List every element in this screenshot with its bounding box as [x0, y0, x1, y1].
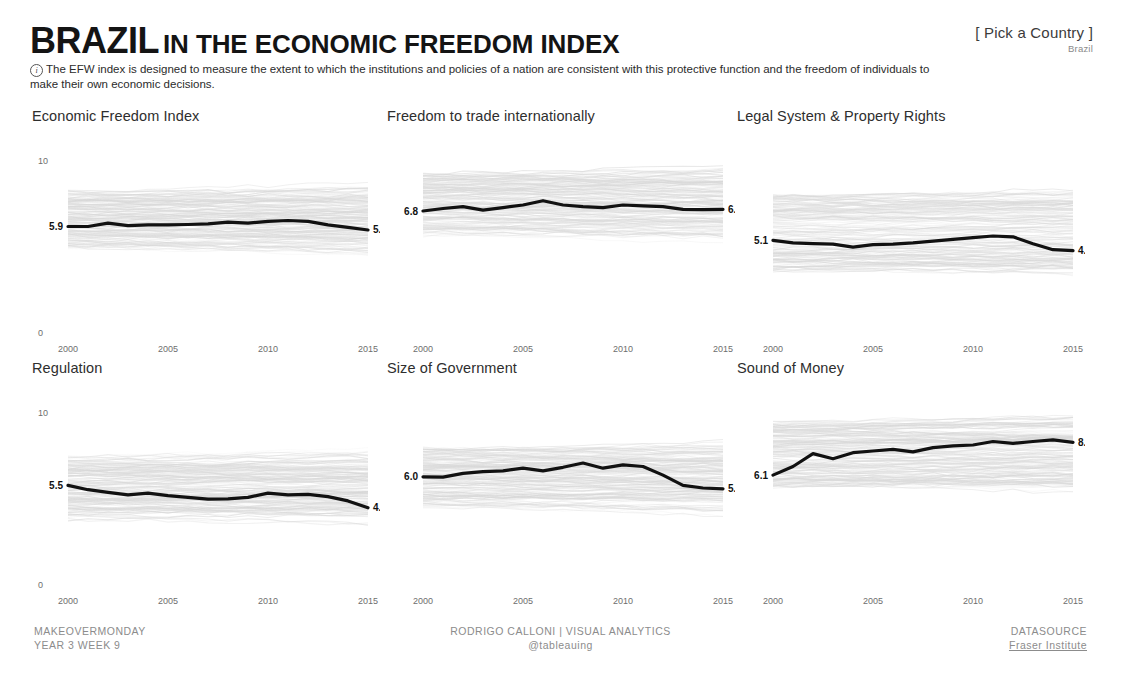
x-axis-tick-2015: 2015 — [358, 596, 378, 606]
plot-area: 6.18.0 2000200520102015 — [735, 382, 1085, 604]
line-chart-svg: 5.95.7 — [30, 130, 380, 352]
chart-panel-economic-freedom-index: Economic Freedom Index 10 0 5.95.7 20002… — [30, 108, 380, 358]
x-axis-tick-2010: 2010 — [963, 344, 983, 354]
chart-panel-regulation: Regulation 10 0 5.54.2 2000200520102015 — [30, 360, 380, 610]
x-axis-tick-2000: 2000 — [413, 596, 433, 606]
end-value-label: 4.2 — [373, 502, 380, 513]
page-title: BRAZILIN THE ECONOMIC FREEDOM INDEX — [30, 20, 619, 62]
info-icon: i — [30, 64, 43, 77]
x-axis: 2000200520102015 — [773, 344, 1073, 358]
chart-title: Economic Freedom Index — [32, 108, 380, 130]
subtitle: iThe EFW index is designed to measure th… — [30, 62, 930, 92]
chart-panel-freedom-to-trade: Freedom to trade internationally 6.86.9 … — [385, 108, 735, 358]
page-title-rest: IN THE ECONOMIC FREEDOM INDEX — [163, 29, 619, 59]
chart-title: Size of Government — [387, 360, 735, 382]
x-axis-tick-2015: 2015 — [358, 344, 378, 354]
start-value-label: 5.9 — [49, 221, 63, 232]
chart-title: Freedom to trade internationally — [387, 108, 735, 130]
background-country-lines — [68, 448, 368, 526]
x-axis-tick-2005: 2005 — [158, 596, 178, 606]
end-value-label: 6.9 — [728, 204, 735, 215]
plot-area: 5.14.5 2000200520102015 — [735, 130, 1085, 352]
country-picker[interactable]: [ Pick a Country ] Brazil — [975, 24, 1093, 54]
x-axis: 2000200520102015 — [68, 596, 368, 610]
chart-panel-legal-system: Legal System & Property Rights 5.14.5 20… — [735, 108, 1085, 358]
chart-panel-size-of-government: Size of Government 6.05.3 20002005201020… — [385, 360, 735, 610]
x-axis-tick-2015: 2015 — [1063, 344, 1083, 354]
line-chart-svg: 6.18.0 — [735, 382, 1085, 604]
line-chart-svg: 6.86.9 — [385, 130, 735, 352]
x-axis-tick-2000: 2000 — [58, 344, 78, 354]
background-country-lines — [68, 182, 368, 255]
end-value-label: 5.7 — [373, 224, 380, 235]
x-axis-tick-2010: 2010 — [613, 596, 633, 606]
x-axis-tick-2010: 2010 — [963, 596, 983, 606]
end-value-label: 5.3 — [728, 483, 735, 494]
start-value-label: 5.5 — [49, 480, 63, 491]
line-chart-svg: 5.54.2 — [30, 382, 380, 604]
footer-center-line2: @tableauing — [0, 638, 1121, 652]
end-value-label: 4.5 — [1078, 245, 1085, 256]
chart-panel-sound-of-money: Sound of Money 6.18.0 2000200520102015 — [735, 360, 1085, 610]
plot-area: 10 0 5.54.2 2000200520102015 — [30, 382, 380, 604]
chart-grid: Economic Freedom Index 10 0 5.95.7 20002… — [0, 108, 1121, 608]
background-country-lines — [423, 166, 723, 243]
dashboard-footer: MAKEOVERMONDAY YEAR 3 WEEK 9 RODRIGO CAL… — [0, 612, 1121, 674]
start-value-label: 6.8 — [404, 206, 418, 217]
start-value-label: 6.0 — [404, 471, 418, 482]
footer-datasource: DATASOURCE Fraser Institute — [1009, 624, 1087, 652]
country-picker-label[interactable]: [ Pick a Country ] — [975, 24, 1093, 41]
x-axis-tick-2000: 2000 — [413, 344, 433, 354]
chart-title: Regulation — [32, 360, 380, 382]
subtitle-text: The EFW index is designed to measure the… — [30, 63, 929, 90]
x-axis-tick-2000: 2000 — [763, 596, 783, 606]
background-country-lines — [423, 440, 723, 517]
footer-center-line1: RODRIGO CALLONI | VISUAL ANALYTICS — [0, 624, 1121, 638]
chart-title: Legal System & Property Rights — [737, 108, 1085, 130]
datasource-link[interactable]: Fraser Institute — [1009, 638, 1087, 652]
x-axis: 2000200520102015 — [423, 344, 723, 358]
end-value-label: 8.0 — [1078, 437, 1085, 448]
x-axis-tick-2010: 2010 — [258, 344, 278, 354]
x-axis-tick-2000: 2000 — [763, 344, 783, 354]
country-picker-value: Brazil — [975, 43, 1093, 54]
footer-right-line1: DATASOURCE — [1009, 624, 1087, 638]
x-axis-tick-2015: 2015 — [1063, 596, 1083, 606]
x-axis: 2000200520102015 — [68, 344, 368, 358]
footer-author: RODRIGO CALLONI | VISUAL ANALYTICS @tabl… — [0, 624, 1121, 652]
x-axis-tick-2000: 2000 — [58, 596, 78, 606]
dashboard-header: BRAZILIN THE ECONOMIC FREEDOM INDEX iThe… — [0, 0, 1121, 108]
x-axis-tick-2005: 2005 — [863, 344, 883, 354]
plot-area: 6.86.9 2000200520102015 — [385, 130, 735, 352]
x-axis-tick-2005: 2005 — [158, 344, 178, 354]
start-value-label: 5.1 — [754, 235, 768, 246]
x-axis: 2000200520102015 — [773, 596, 1073, 610]
plot-area: 6.05.3 2000200520102015 — [385, 382, 735, 604]
line-chart-svg: 5.14.5 — [735, 130, 1085, 352]
x-axis-tick-2015: 2015 — [713, 596, 733, 606]
background-country-lines — [773, 189, 1073, 276]
line-chart-svg: 6.05.3 — [385, 382, 735, 604]
start-value-label: 6.1 — [754, 470, 768, 481]
x-axis-tick-2005: 2005 — [863, 596, 883, 606]
x-axis-tick-2005: 2005 — [513, 344, 533, 354]
plot-area: 10 0 5.95.7 2000200520102015 — [30, 130, 380, 352]
x-axis-tick-2010: 2010 — [258, 596, 278, 606]
x-axis: 2000200520102015 — [423, 596, 723, 610]
page-title-country: BRAZIL — [30, 20, 159, 61]
x-axis-tick-2010: 2010 — [613, 344, 633, 354]
x-axis-tick-2005: 2005 — [513, 596, 533, 606]
chart-title: Sound of Money — [737, 360, 1085, 382]
x-axis-tick-2015: 2015 — [713, 344, 733, 354]
